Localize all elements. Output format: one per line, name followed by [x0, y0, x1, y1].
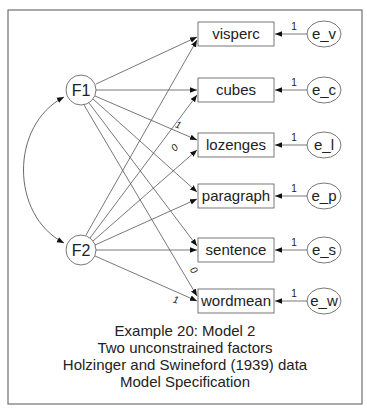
error-e_w: e_w1	[275, 288, 341, 314]
covariance-arc	[24, 97, 65, 243]
svg-text:F1: F1	[72, 82, 91, 99]
observed-visperc: visperc	[198, 22, 274, 46]
svg-text:1: 1	[291, 77, 297, 88]
observed-variables: visperce_v1cubese_c1lozengese_l1paragrap…	[198, 21, 341, 314]
svg-text:e_w: e_w	[310, 292, 338, 309]
caption-line-4: Model Specification	[8, 373, 362, 390]
paths-from-f1	[84, 37, 197, 296]
caption-line-1: Example 20: Model 2	[8, 322, 362, 339]
path-label-f2-wordmean: 1	[172, 294, 180, 306]
observed-paragraph: paragraph	[198, 184, 274, 208]
path-label-f1-wordmean: 0	[188, 265, 200, 276]
observed-label: sentence	[206, 241, 267, 258]
factor-f2: F2	[66, 235, 96, 265]
path-label-f1-lozenges: 1	[174, 119, 183, 131]
svg-text:e_s: e_s	[312, 241, 336, 258]
observed-label: paragraph	[202, 187, 270, 204]
path-label-f2-lozenges: 0	[169, 141, 181, 153]
observed-cubes: cubes	[198, 78, 274, 102]
error-e_c: e_c1	[275, 77, 341, 103]
svg-text:1: 1	[291, 132, 297, 143]
svg-text:1: 1	[291, 183, 297, 194]
svg-text:e_v: e_v	[312, 25, 337, 42]
paths-from-f2	[86, 40, 197, 301]
diagram-caption: Example 20: Model 2 Two unconstrained fa…	[8, 322, 362, 390]
observed-sentence: sentence	[198, 238, 274, 262]
error-e_l: e_l1	[275, 132, 341, 158]
observed-label: cubes	[216, 81, 256, 98]
observed-label: wordmean	[200, 292, 271, 309]
error-e_p: e_p1	[275, 183, 341, 209]
observed-lozenges: lozenges	[198, 133, 274, 157]
svg-text:1: 1	[291, 288, 297, 299]
path-labels: 1001	[169, 119, 201, 306]
svg-text:1: 1	[291, 237, 297, 248]
svg-text:e_p: e_p	[311, 187, 336, 204]
observed-wordmean: wordmean	[198, 289, 274, 313]
svg-text:F2: F2	[72, 242, 91, 259]
observed-label: lozenges	[206, 136, 266, 153]
error-e_s: e_s1	[275, 237, 341, 263]
error-e_v: e_v1	[275, 21, 341, 47]
factor-f1: F1	[66, 75, 96, 105]
caption-line-3: Holzinger and Swineford (1939) data	[8, 356, 362, 373]
svg-text:1: 1	[291, 21, 297, 32]
svg-text:e_l: e_l	[314, 136, 334, 153]
svg-text:e_c: e_c	[312, 81, 337, 98]
observed-label: visperc	[212, 25, 260, 42]
caption-line-2: Two unconstrained factors	[8, 339, 362, 356]
